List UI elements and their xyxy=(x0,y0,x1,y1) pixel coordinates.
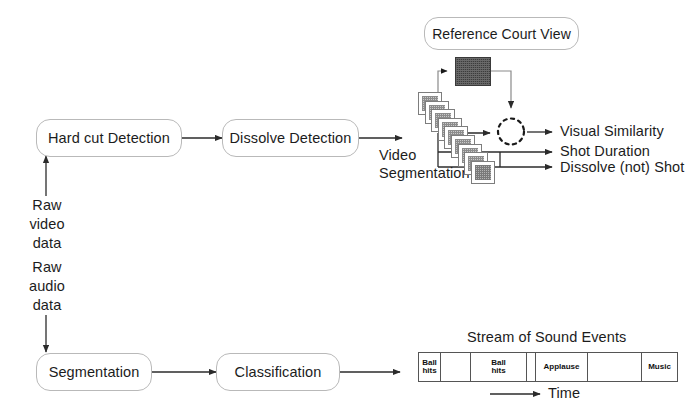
timeline-segment-4[interactable] xyxy=(527,353,536,381)
timeline-segment-6[interactable] xyxy=(588,353,642,381)
label-raw-audio-data: Raw audio data xyxy=(26,258,68,315)
timeline-segment-2[interactable] xyxy=(441,353,471,381)
timeline-segment-label: Applause xyxy=(543,363,579,371)
timeline-segment-1[interactable]: Ballhits xyxy=(419,353,441,381)
sound-event-timeline[interactable]: BallhitsBallhitsApplauseMusic xyxy=(418,352,678,382)
timeline-segment-label: Music xyxy=(648,363,671,371)
output-label-visual-similarity: Visual Similarity xyxy=(560,123,664,139)
node-segmentation[interactable]: Segmentation xyxy=(36,353,152,391)
output-label-shot-duration: Shot Duration xyxy=(560,143,650,159)
node-classification[interactable]: Classification xyxy=(216,353,340,391)
video-frame-texture xyxy=(475,165,491,180)
timeline-segment-label: Ballhits xyxy=(422,359,437,376)
timeline-segment-3[interactable]: Ballhits xyxy=(471,353,527,381)
label-time-axis: Time xyxy=(548,385,580,401)
output-label-dissolve-not-shot: Dissolve (not) Shot xyxy=(560,159,684,175)
label-raw-video-data: Raw video data xyxy=(26,196,68,253)
timeline-segment-5[interactable]: Applause xyxy=(536,353,588,381)
timeline-segment-7[interactable]: Music xyxy=(642,353,677,381)
timeline-segment-label: Ballhits xyxy=(491,359,506,376)
video-frame-9 xyxy=(471,161,495,184)
pipeline-diagram: Hard cut Detection Dissolve Detection Re… xyxy=(0,0,694,419)
label-stream-of-sound-events: Stream of Sound Events xyxy=(467,329,626,345)
